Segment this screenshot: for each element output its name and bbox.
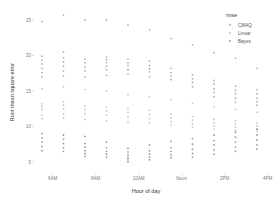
data-point bbox=[170, 72, 172, 74]
data-point bbox=[192, 74, 194, 76]
data-point bbox=[170, 147, 172, 149]
data-point bbox=[235, 131, 237, 133]
data-point bbox=[63, 150, 65, 152]
data-point bbox=[63, 138, 65, 140]
y-tick-label: 20 bbox=[26, 53, 32, 58]
data-point bbox=[192, 126, 194, 128]
data-point bbox=[106, 150, 108, 152]
x-axis: 6AM8AM10AMNoon2PM4PM bbox=[48, 173, 273, 181]
data-point bbox=[127, 24, 129, 26]
data-point bbox=[63, 101, 65, 103]
data-point bbox=[106, 65, 108, 67]
data-point bbox=[84, 58, 86, 60]
legend-label: Bayes bbox=[238, 39, 251, 44]
data-point bbox=[213, 144, 215, 146]
data-point bbox=[235, 126, 237, 128]
data-point bbox=[213, 79, 215, 81]
data-point bbox=[256, 97, 258, 99]
data-point bbox=[149, 76, 151, 78]
data-point bbox=[235, 136, 237, 138]
data-point bbox=[63, 108, 65, 110]
data-point bbox=[127, 62, 129, 64]
data-point bbox=[149, 159, 151, 161]
data-point bbox=[106, 19, 108, 21]
data-point bbox=[192, 44, 194, 46]
data-point bbox=[192, 138, 194, 140]
x-tick-label: 6AM bbox=[48, 176, 58, 181]
data-point bbox=[192, 123, 194, 125]
data-point bbox=[170, 67, 172, 69]
y-tick-label: 10 bbox=[26, 124, 32, 129]
data-point bbox=[127, 116, 129, 118]
data-point bbox=[149, 150, 151, 152]
data-point bbox=[213, 122, 215, 124]
data-point bbox=[41, 21, 43, 23]
data-point bbox=[84, 155, 86, 157]
data-point bbox=[256, 111, 258, 113]
data-point bbox=[213, 149, 215, 151]
legend-title: rmse bbox=[226, 12, 252, 18]
x-tick-label: 10AM bbox=[133, 176, 145, 181]
data-point bbox=[63, 65, 65, 67]
data-point bbox=[41, 118, 43, 120]
data-point bbox=[63, 14, 65, 16]
data-point bbox=[41, 141, 43, 143]
data-point bbox=[256, 139, 258, 141]
data-point bbox=[213, 125, 215, 127]
data-point bbox=[127, 111, 129, 113]
data-point bbox=[63, 147, 65, 149]
data-point bbox=[84, 150, 86, 152]
data-point bbox=[84, 146, 86, 148]
data-point bbox=[149, 68, 151, 70]
y-tick-label: 5 bbox=[28, 160, 31, 165]
data-point bbox=[149, 109, 151, 111]
data-point bbox=[235, 123, 237, 125]
data-point bbox=[106, 153, 108, 155]
data-point bbox=[235, 89, 237, 91]
data-point bbox=[170, 124, 172, 126]
data-point bbox=[192, 143, 194, 145]
data-point bbox=[127, 58, 129, 60]
data-point bbox=[170, 38, 172, 40]
x-tick-label: 4PM bbox=[263, 176, 273, 181]
data-point bbox=[256, 131, 258, 133]
data-point bbox=[127, 94, 129, 96]
data-point bbox=[84, 105, 86, 107]
data-point bbox=[170, 114, 172, 116]
cmaq-dot-icon bbox=[229, 24, 231, 26]
data-point bbox=[106, 90, 108, 92]
data-point bbox=[127, 161, 129, 163]
data-point bbox=[170, 141, 172, 143]
x-tick-label: 8AM bbox=[91, 176, 101, 181]
data-point bbox=[170, 150, 172, 152]
data-point bbox=[149, 65, 151, 67]
data-point bbox=[63, 86, 65, 88]
data-point bbox=[84, 19, 86, 21]
data-point bbox=[192, 82, 194, 84]
data-point bbox=[149, 156, 151, 158]
data-point bbox=[256, 134, 258, 136]
data-point bbox=[149, 153, 151, 155]
data-point bbox=[63, 113, 65, 115]
data-point bbox=[41, 106, 43, 108]
data-point bbox=[235, 150, 237, 152]
x-tick-label: Noon bbox=[176, 176, 187, 181]
data-point bbox=[106, 74, 108, 76]
data-point bbox=[149, 122, 151, 124]
data-point bbox=[41, 133, 43, 135]
data-point bbox=[192, 86, 194, 88]
data-point bbox=[192, 153, 194, 155]
data-point bbox=[84, 143, 86, 145]
data-point bbox=[41, 72, 43, 74]
data-point bbox=[213, 52, 215, 54]
data-point bbox=[256, 93, 258, 95]
data-point bbox=[106, 69, 108, 71]
data-point bbox=[41, 60, 43, 62]
data-point bbox=[127, 121, 129, 123]
data-point bbox=[63, 143, 65, 145]
data-point bbox=[256, 101, 258, 103]
data-point bbox=[192, 78, 194, 80]
data-point bbox=[106, 141, 108, 143]
y-tick-label: 25 bbox=[26, 18, 32, 23]
x-tick-label: 2PM bbox=[220, 176, 230, 181]
